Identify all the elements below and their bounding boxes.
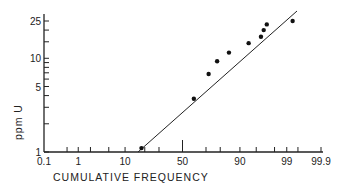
- x-tick-labels: 0.111050909999.9: [37, 156, 331, 167]
- svg-text:90: 90: [234, 156, 246, 167]
- y-ticks: [44, 21, 49, 152]
- svg-text:10: 10: [30, 53, 42, 64]
- x-ticks: [67, 140, 321, 152]
- data-point: [227, 50, 231, 54]
- data-point: [206, 72, 210, 76]
- x-axis-title: CUMULATIVE FREQUENCY: [53, 171, 209, 183]
- data-point: [192, 97, 196, 101]
- probability-plot: 151025 0.111050909999.9 CUMULATIVE FREQU…: [0, 0, 345, 187]
- svg-text:0.1: 0.1: [37, 156, 51, 167]
- data-point: [265, 22, 269, 26]
- y-axis-title: ppm U: [12, 104, 24, 140]
- data-point: [215, 59, 219, 63]
- svg-text:1: 1: [75, 156, 81, 167]
- svg-text:10: 10: [120, 156, 132, 167]
- svg-text:99: 99: [281, 156, 293, 167]
- data-point: [262, 28, 266, 32]
- data-point: [246, 41, 250, 45]
- svg-text:99.9: 99.9: [311, 156, 331, 167]
- data-point: [259, 34, 263, 38]
- y-tick-labels: 151025: [30, 16, 42, 158]
- data-point: [139, 146, 143, 150]
- svg-text:5: 5: [35, 82, 41, 93]
- fit-line: [138, 11, 297, 152]
- svg-text:50: 50: [177, 156, 189, 167]
- svg-text:25: 25: [30, 16, 42, 27]
- data-point: [290, 19, 294, 23]
